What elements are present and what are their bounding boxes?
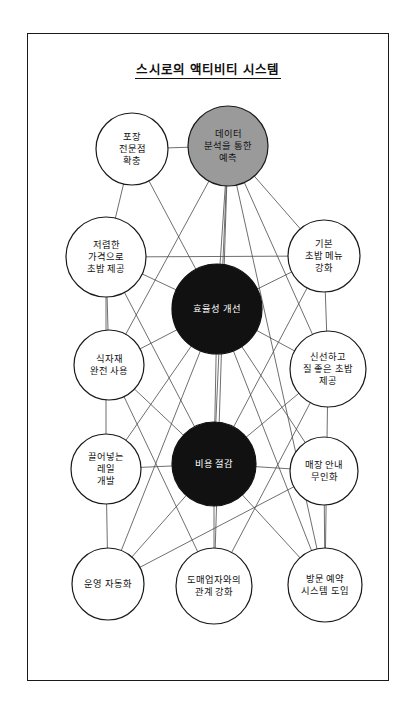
node-freshsushi bbox=[290, 331, 366, 407]
node-prediction bbox=[188, 106, 268, 186]
edge-cheapsushi-efficiency bbox=[141, 274, 177, 291]
activity-system-graph bbox=[28, 34, 390, 682]
node-ingredients bbox=[74, 330, 144, 400]
edge-rail-costcut bbox=[140, 466, 173, 468]
diagram-frame: 스시로의 액티비티 시스템 포장 전문점 확충데이터 분석을 통한 예측저렴한 … bbox=[27, 33, 389, 681]
edge-rail-automation bbox=[107, 503, 108, 549]
node-basicmenu bbox=[288, 220, 360, 292]
node-reservation bbox=[288, 548, 362, 622]
node-efficiency bbox=[172, 264, 262, 354]
node-rail bbox=[71, 434, 141, 504]
node-storeguide bbox=[290, 437, 358, 505]
node-wholesale bbox=[176, 548, 252, 624]
edge-basicmenu-freshsushi bbox=[325, 291, 326, 332]
edge-ingredients-costcut bbox=[134, 388, 184, 436]
node-packaging bbox=[96, 113, 168, 185]
edge-freshsushi-costcut bbox=[245, 393, 299, 438]
edge-cheapsushi-basicmenu bbox=[145, 256, 289, 257]
edge-packaging-cheapsushi bbox=[115, 183, 124, 219]
node-automation bbox=[72, 548, 144, 620]
edge-costcut-reservation bbox=[242, 494, 301, 558]
edge-costcut-storeguide bbox=[255, 467, 291, 469]
edge-packaging-prediction bbox=[167, 147, 189, 148]
diagram-page: 스시로의 액티비티 시스템 포장 전문점 확충데이터 분석을 통한 예측저렴한 … bbox=[0, 0, 417, 716]
edge-basicmenu-efficiency bbox=[256, 272, 292, 290]
edge-cheapsushi-ingredients bbox=[107, 296, 108, 331]
node-costcut bbox=[172, 422, 256, 506]
node-cheapsushi bbox=[66, 217, 146, 297]
edge-prediction-basicmenu bbox=[254, 175, 301, 229]
